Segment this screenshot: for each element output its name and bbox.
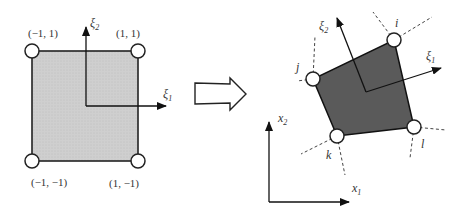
node-bottom-left (25, 154, 39, 168)
node-top-left (25, 44, 39, 58)
node-i (387, 33, 401, 47)
physical-element: i j k l ξ2 ξ1 (294, 12, 446, 175)
label-bottom-right: (1, −1) (109, 177, 139, 190)
node-l (407, 120, 421, 134)
node-bottom-right (131, 154, 145, 168)
xi2-label: ξ2 (90, 16, 99, 32)
x2-label: x2 (277, 111, 287, 127)
label-j: j (294, 60, 300, 74)
local-xi2-label: ξ2 (319, 19, 328, 35)
label-top-right: (1, 1) (116, 27, 140, 40)
node-top-right (131, 44, 145, 58)
physical-quad (313, 40, 414, 136)
label-top-left: (−1, 1) (28, 27, 58, 40)
mapping-arrow-icon (195, 78, 246, 110)
node-j (306, 72, 320, 86)
label-l: l (421, 137, 425, 151)
label-bottom-left: (−1, −1) (31, 176, 68, 189)
parent-element: (−1, 1) (1, 1) (−1, −1) (1, −1) ξ2 ξ1 (25, 16, 172, 190)
xi1-label: ξ1 (163, 87, 172, 103)
element-mapping-diagram: (−1, 1) (1, 1) (−1, −1) (1, −1) ξ2 ξ1 i … (0, 0, 467, 216)
x1-label: x1 (351, 181, 361, 197)
node-k (330, 129, 344, 143)
local-xi1-label: ξ1 (426, 49, 435, 65)
label-i: i (395, 16, 398, 30)
label-k: k (326, 148, 332, 162)
